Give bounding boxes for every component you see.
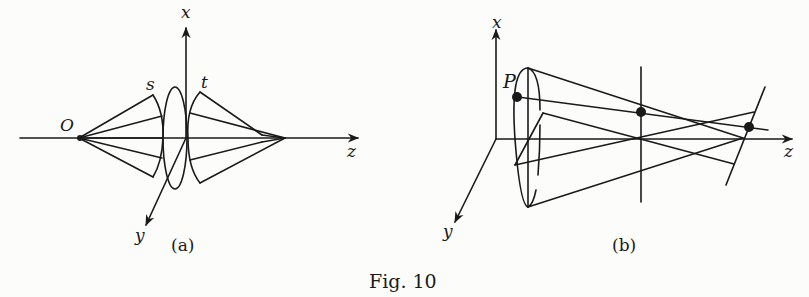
point-P-label: P [503,72,516,91]
panel-b-sublabel: (b) [612,237,636,254]
sagittal-label: s [146,76,155,93]
focal-point-middle [636,107,646,117]
y-axis-label-a: y [135,227,145,244]
y-axis-label-b: y [443,223,453,240]
cone-bottom-edge [528,138,743,207]
panel-a-sublabel: (a) [171,237,194,254]
z-axis-label-b: z [784,143,793,160]
y-axis-a [146,138,186,225]
origin-label: O [60,117,74,134]
x-axis-label-b: x [492,14,502,31]
figure-caption: Fig. 10 [369,272,437,291]
tangential-focal-line [726,87,765,185]
ray-fan-left [79,95,163,177]
origin-point [77,135,83,141]
figure-10: x z y O s t (a) x z y P (b) Fig. 10 [0,0,809,297]
tangential-label: t [201,74,208,91]
point-P [512,92,522,102]
panel-b [455,30,792,222]
y-axis-b [455,139,496,222]
aperture-front [514,68,528,207]
x-axis-label-a: x [181,4,191,21]
focal-point-right [744,122,754,132]
figure-drawing [0,0,809,297]
z-axis-label-a: z [347,143,356,160]
